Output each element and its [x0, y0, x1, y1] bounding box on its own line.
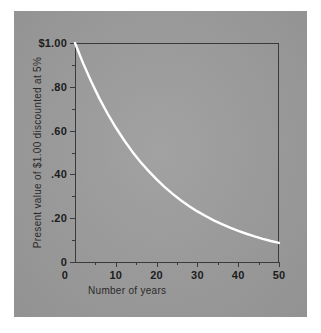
x-minor-tick [136, 262, 137, 265]
x-minor-tick [177, 262, 178, 265]
discount-curve [75, 43, 279, 262]
x-tick-20 [157, 262, 158, 267]
y-tick-label: .80 [51, 81, 67, 93]
x-tick-label: 50 [273, 269, 286, 281]
x-tick-label: 20 [150, 269, 163, 281]
y-tick-label: .60 [51, 125, 67, 137]
y-tick-label: .40 [51, 168, 67, 180]
plot-area: 0.20.40.60.80$1.00 01020304050 [75, 43, 279, 262]
x-tick-label: 40 [232, 269, 245, 281]
y-axis-title-text: Present value of $1.00 discounted at 5% [33, 57, 44, 248]
discount-curve-path [75, 43, 279, 243]
x-tick-10 [116, 262, 117, 267]
x-tick-label: 0 [62, 269, 68, 281]
y-tick-label: $1.00 [38, 37, 67, 49]
figure-container: Present value of $1.00 discounted at 5% … [0, 0, 321, 333]
x-axis-title: Number of years [88, 285, 166, 296]
y-tick-label: 0 [61, 256, 67, 268]
y-tick-label: .20 [51, 212, 67, 224]
x-minor-tick [218, 262, 219, 265]
x-tick-30 [197, 262, 198, 267]
x-tick-label: 30 [191, 269, 204, 281]
x-tick-40 [238, 262, 239, 267]
x-tick-label: 10 [109, 269, 122, 281]
y-axis-title: Present value of $1.00 discounted at 5% [31, 43, 45, 262]
x-minor-tick [95, 262, 96, 265]
y-tick-0 [70, 262, 75, 263]
x-minor-tick [259, 262, 260, 265]
x-tick-50 [279, 262, 280, 267]
